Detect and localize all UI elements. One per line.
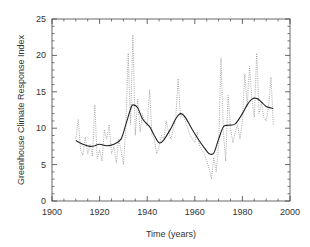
x-tick-label: 1940 xyxy=(137,207,157,217)
y-tick-label: 20 xyxy=(36,50,46,60)
y-tick-label: 10 xyxy=(36,123,46,133)
x-tick-label: 1980 xyxy=(232,207,252,217)
y-tick-label: 5 xyxy=(41,160,46,170)
annual-series-dotted-line xyxy=(76,35,273,179)
series-group xyxy=(76,35,273,179)
x-axis-label: Time (years) xyxy=(146,229,196,239)
x-tick-label: 2000 xyxy=(280,207,300,217)
x-tick-label: 1920 xyxy=(90,207,110,217)
y-axis-label: Greenhouse Climate Response Index xyxy=(16,34,26,185)
y-tick-label: 25 xyxy=(36,14,46,24)
y-tick-label: 0 xyxy=(41,196,46,206)
y-tick-label: 15 xyxy=(36,87,46,97)
plot-frame xyxy=(52,19,290,201)
x-tick-label: 1960 xyxy=(185,207,205,217)
line-chart: 1900192019401960198020000510152025 Time … xyxy=(0,0,310,247)
chart-container: 1900192019401960198020000510152025 Time … xyxy=(0,0,310,247)
x-tick-label: 1900 xyxy=(42,207,62,217)
axes: 1900192019401960198020000510152025 xyxy=(36,14,300,217)
smoothed-series-line xyxy=(76,98,273,154)
